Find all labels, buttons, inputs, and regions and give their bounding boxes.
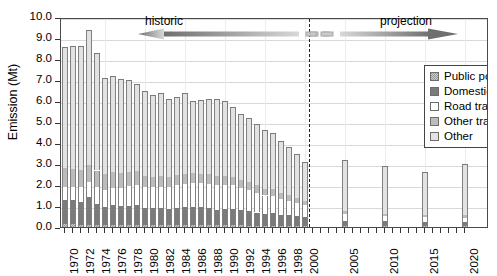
bar-segment <box>86 165 92 182</box>
bar-segment <box>422 217 428 222</box>
legend-swatch-icon <box>430 132 439 141</box>
bar-segment <box>94 171 100 188</box>
bar-segment <box>150 208 156 225</box>
bar-segment <box>62 224 68 227</box>
bar-segment <box>182 207 188 225</box>
bar-segment <box>134 84 140 171</box>
bar-segment <box>382 166 388 213</box>
bar-segment <box>294 203 300 216</box>
bar-segment <box>62 200 68 225</box>
bar-segment <box>214 210 220 225</box>
bar-segment <box>294 198 300 203</box>
bar-segment <box>150 177 156 188</box>
bar-segment <box>302 217 308 226</box>
bar-segment <box>118 188 124 206</box>
bar-segment <box>62 187 68 200</box>
bar-segment <box>254 213 260 226</box>
legend-label: Road transport <box>444 101 488 112</box>
bar-segment <box>238 210 244 225</box>
x-tick-label: 1972 <box>84 234 96 274</box>
bar-segment <box>134 225 140 227</box>
bar-segment <box>222 101 228 176</box>
bar-segment <box>206 99 212 174</box>
bar <box>134 18 140 227</box>
x-tick-label: 1990 <box>228 234 240 274</box>
bar-segment <box>110 172 116 187</box>
x-tick-label: 1992 <box>244 234 256 274</box>
bar <box>254 18 260 227</box>
legend-item: Public power <box>430 69 488 84</box>
bar-segment <box>110 76 116 173</box>
bar-segment <box>70 200 76 225</box>
bar <box>142 18 148 227</box>
bar-segment <box>142 187 148 208</box>
bar <box>382 18 388 227</box>
bar <box>190 18 196 227</box>
bar-segment <box>206 208 212 225</box>
bar <box>246 18 252 227</box>
bar-segment <box>286 195 292 200</box>
bar-segment <box>102 225 108 227</box>
bar-segment <box>174 225 180 227</box>
bar-segment <box>254 124 260 185</box>
bar-segment <box>206 184 212 209</box>
bar-segment <box>166 177 172 187</box>
bar-segment <box>86 225 92 227</box>
bar-segment <box>94 53 100 171</box>
bar-segment <box>174 185 180 208</box>
legend-swatch-icon <box>430 102 439 111</box>
bar-segment <box>270 133 276 190</box>
bar-segment <box>214 99 220 176</box>
legend-item: Road transport <box>430 99 488 114</box>
bar-segment <box>462 215 468 218</box>
bar-segment <box>342 221 348 226</box>
bar-segment <box>246 226 252 227</box>
x-tick-label: 1998 <box>292 234 304 274</box>
x-tick-label: 2020 <box>468 234 480 274</box>
bar-segment <box>270 213 276 226</box>
bar-segment <box>342 214 348 220</box>
bar-segment <box>382 214 388 217</box>
bar-segment <box>270 196 276 213</box>
bar-segment <box>190 207 196 225</box>
bar-segment <box>70 169 76 187</box>
legend-item: Domestic <box>430 84 488 99</box>
bar-segment <box>78 46 84 170</box>
bar-segment <box>102 78 108 174</box>
x-tick-label: 2010 <box>388 234 400 274</box>
bar-segment <box>174 208 180 225</box>
bar-segment <box>86 30 92 166</box>
y-tick-label: 4.0 <box>8 136 52 148</box>
bar-segment <box>142 91 148 177</box>
y-tick-label: 8.0 <box>8 52 52 64</box>
bar-segment <box>166 209 172 225</box>
bar-segment <box>286 226 292 227</box>
bar-segment <box>422 172 428 214</box>
y-tick-label: 1.0 <box>8 199 52 211</box>
bar-segment <box>278 199 284 215</box>
bar-segment <box>94 187 100 203</box>
projection-label: projection <box>366 14 446 28</box>
bar-segment <box>302 201 308 206</box>
bar-segment <box>158 208 164 225</box>
bar-segment <box>270 189 276 195</box>
bar-segment <box>102 174 108 190</box>
bar-segment <box>286 201 292 216</box>
bar-segment <box>246 182 252 190</box>
y-tick-label: 7.0 <box>8 73 52 85</box>
legend-label: Other transport <box>444 116 488 127</box>
chart-root: Emission (Mt) 0.01.02.03.04.05.06.07.08.… <box>0 0 497 276</box>
bar-segment <box>110 225 116 227</box>
bar <box>286 18 292 227</box>
bar-segment <box>238 114 244 181</box>
bar-segment <box>182 93 188 174</box>
bar-segment <box>238 225 244 227</box>
bar-segment <box>278 141 284 194</box>
bar-segment <box>62 47 68 168</box>
y-tick-label: 9.0 <box>8 31 52 43</box>
bar-segment <box>342 211 348 214</box>
legend-swatch-icon <box>430 87 439 96</box>
bar-segment <box>206 225 212 227</box>
bar-segment <box>150 95 156 177</box>
bar <box>150 18 156 227</box>
